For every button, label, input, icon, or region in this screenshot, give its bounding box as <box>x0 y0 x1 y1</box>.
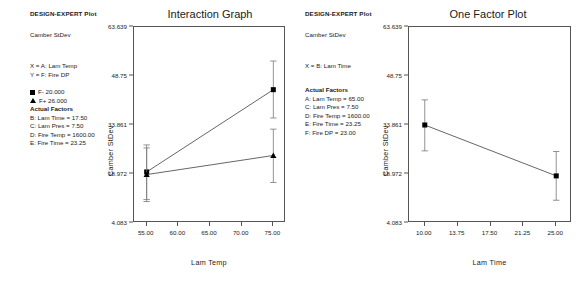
legend: F- 20.000 F+ 26.000 <box>30 88 67 105</box>
response-name: Camber StDev <box>30 31 71 38</box>
interaction-graph-panel: DESIGN-EXPERT Plot Camber StDev X = A: L… <box>0 0 292 288</box>
x-tick-mark <box>272 222 273 226</box>
x-tick-mark <box>146 222 147 226</box>
square-marker-icon <box>30 90 35 95</box>
y-axis-title: Camber StDev <box>381 125 390 176</box>
response-name: Camber StDev <box>305 31 346 38</box>
actual-factor-a: A: Lam Temp = 65.00 <box>305 95 370 104</box>
actual-factor-e: E: Fire Time = 23.25 <box>30 139 95 148</box>
x-tick-label: 17.50 <box>482 229 497 236</box>
x-tick-mark <box>241 222 242 226</box>
x-tick-mark <box>424 222 425 226</box>
actual-factor-d: D: Fire Temp = 1600.00 <box>305 112 370 121</box>
y-axis-title: Camber StDev <box>106 125 115 176</box>
y-tick-mark <box>404 222 408 223</box>
x-tick-mark <box>522 222 523 226</box>
series-line <box>425 125 556 176</box>
x-tick-label: 13.75 <box>449 229 464 236</box>
plot-canvas <box>409 27 572 223</box>
one-factor-plot-panel: DESIGN-EXPERT Plot Camber StDev X = B: L… <box>293 0 585 288</box>
square-marker-icon <box>271 87 276 92</box>
x-tick-label: 21.25 <box>515 229 530 236</box>
y-tick-mark <box>129 26 133 27</box>
y-tick-label: 63.639 <box>85 23 127 30</box>
x-tick-mark <box>555 222 556 226</box>
x-tick-label: 60.00 <box>170 229 185 236</box>
legend-item-low: F- 20.000 <box>30 88 67 97</box>
axis-definitions: X = B: Lam Time <box>305 62 351 71</box>
plot-area <box>408 26 571 222</box>
design-expert-plot-header: DESIGN-EXPERT Plot <box>30 10 97 17</box>
x-tick-mark <box>490 222 491 226</box>
square-marker-icon <box>554 173 559 178</box>
actual-factors-heading: Actual Factors <box>30 105 95 114</box>
actual-factors-block: Actual Factors A: Lam Temp = 65.00 C: La… <box>305 86 370 138</box>
square-marker-icon <box>422 123 427 128</box>
x-axis-definition: X = B: Lam Time <box>305 62 351 71</box>
series-line <box>147 90 274 172</box>
y-tick-mark <box>404 124 408 125</box>
y-tick-mark <box>129 173 133 174</box>
y-tick-mark <box>404 173 408 174</box>
y-tick-label: 48.75 <box>360 72 402 79</box>
actual-factor-c: C: Lam Pres = 7.50 <box>305 103 370 112</box>
y-tick-label: 33.861 <box>85 121 127 128</box>
y-tick-label: 48.75 <box>85 72 127 79</box>
y-tick-label: 4.083 <box>85 219 127 226</box>
design-expert-plot-header: DESIGN-EXPERT Plot <box>305 10 372 17</box>
y-tick-mark <box>404 75 408 76</box>
plot-area <box>133 26 285 222</box>
y-tick-label: 18.972 <box>85 170 127 177</box>
x-tick-mark <box>457 222 458 226</box>
series-line <box>147 155 274 174</box>
y-tick-label: 63.639 <box>360 23 402 30</box>
x-tick-label: 10.00 <box>416 229 431 236</box>
x-tick-label: 55.00 <box>138 229 153 236</box>
legend-item-high: F+ 26.000 <box>30 97 67 106</box>
y-tick-mark <box>129 124 133 125</box>
triangle-marker-icon <box>270 152 276 158</box>
x-tick-label: 25.00 <box>547 229 562 236</box>
y-tick-mark <box>129 75 133 76</box>
x-tick-mark <box>177 222 178 226</box>
x-axis-definition: X = A: Lam Temp <box>30 62 77 71</box>
y-tick-label: 4.083 <box>360 219 402 226</box>
legend-item-high-label: F+ 26.000 <box>39 97 67 106</box>
x-tick-label: 65.00 <box>201 229 216 236</box>
actual-factors-heading: Actual Factors <box>305 86 370 95</box>
plot-canvas <box>134 27 286 223</box>
y-tick-mark <box>404 26 408 27</box>
x-tick-label: 75.00 <box>265 229 280 236</box>
x-tick-label: 70.00 <box>233 229 248 236</box>
actual-factor-f: F: Fire DP = 23.00 <box>305 129 370 138</box>
x-tick-mark <box>209 222 210 226</box>
y-tick-label: 33.861 <box>360 121 402 128</box>
y-tick-label: 18.972 <box>360 170 402 177</box>
x-axis-title: Lam Time <box>408 258 571 267</box>
chart-title: One Factor Plot <box>403 8 573 20</box>
y-axis-definition: Y = F: Fire DP <box>30 71 77 80</box>
x-axis-title: Lam Temp <box>133 258 285 267</box>
chart-title: Interaction Graph <box>130 8 290 20</box>
y-tick-mark <box>129 222 133 223</box>
axis-definitions: X = A: Lam Temp Y = F: Fire DP <box>30 62 77 79</box>
actual-factor-d: D: Fire Temp = 1600.00 <box>30 131 95 140</box>
legend-item-low-label: F- 20.000 <box>38 88 64 97</box>
triangle-marker-icon <box>30 98 36 103</box>
